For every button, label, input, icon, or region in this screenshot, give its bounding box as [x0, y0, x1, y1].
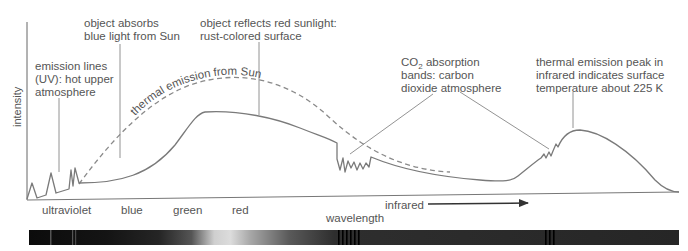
- solar-curve-label: thermal emission from Sun: [128, 65, 263, 118]
- band-label-ultraviolet: ultraviolet: [42, 204, 92, 216]
- leader-co2-left: [350, 94, 433, 154]
- object-spectrum-curve: [27, 112, 679, 199]
- y-axis-label: intensity: [11, 86, 23, 127]
- band-label-red: red: [232, 204, 249, 216]
- annotation-co2-bands: CO2 absorption bands: carbon dioxide atm…: [401, 56, 501, 94]
- annotation-thermal-peak: thermal emission peak in infrared indica…: [536, 56, 668, 94]
- spectrum-diagram: intensity emission lines (UV): hot upper…: [0, 0, 688, 251]
- annotation-absorbs-blue: object absorbs blue light from Sun: [84, 17, 180, 42]
- spectrum-bar: [29, 230, 679, 245]
- band-label-blue: blue: [121, 204, 143, 216]
- band-label-green: green: [173, 204, 202, 216]
- band-label-infrared: infrared: [385, 199, 424, 211]
- annotation-emission-lines: emission lines (UV): hot upper atmospher…: [35, 60, 117, 98]
- infrared-arrow: [428, 203, 528, 204]
- annotation-reflects-red: object reflects red sunlight: rust-color…: [200, 17, 340, 42]
- leader-co2-right: [460, 92, 549, 149]
- x-axis: [27, 192, 679, 200]
- solar-thermal-curve: [79, 77, 450, 184]
- x-axis-label: wavelength: [325, 212, 384, 224]
